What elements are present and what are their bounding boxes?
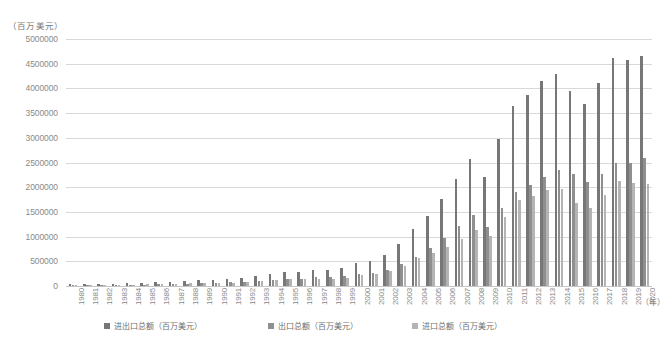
bar-group — [540, 39, 549, 286]
legend-label: 进口总额（百万美元） — [422, 320, 502, 331]
bar-group — [126, 39, 135, 286]
bar-import — [375, 274, 378, 286]
legend-item[interactable]: 进出口总额（百万美元） — [104, 320, 202, 331]
x-axis-unit-label: （年） — [641, 296, 665, 307]
legend-item[interactable]: 进口总额（百万美元） — [412, 320, 502, 331]
x-axis-tick-label: 2013 — [548, 288, 557, 305]
bars-layer — [66, 39, 652, 286]
legend-label: 进出口总额（百万美元） — [114, 320, 202, 331]
bar-group — [140, 39, 149, 286]
bar-import — [175, 284, 178, 286]
bar-import — [132, 285, 135, 286]
x-axis-tick-label: 1997 — [320, 288, 329, 305]
x-axis-tick-label: 2006 — [448, 288, 457, 305]
x-axis-tick-label: 1999 — [348, 288, 357, 305]
x-axis-tick-label: 1986 — [162, 288, 171, 305]
x-axis-tick-label: 2007 — [463, 288, 472, 305]
bar-group — [97, 39, 106, 286]
x-axis-tick-label: 2015 — [577, 288, 586, 305]
x-axis-tick-label: 2002 — [391, 288, 400, 305]
bar-import — [532, 196, 535, 286]
x-axis-tick-label: 2012 — [534, 288, 543, 305]
x-axis-tick-labels: 1980198119821983198419851986198719881989… — [66, 288, 652, 322]
bar-group — [497, 39, 506, 286]
x-axis-tick-label: 1998 — [334, 288, 343, 305]
bar-group — [555, 39, 564, 286]
bar-group — [426, 39, 435, 286]
bar-group — [240, 39, 249, 286]
bar-import — [361, 275, 364, 286]
bar-import — [518, 200, 521, 286]
legend-swatch-icon — [268, 323, 274, 329]
bar-group — [640, 39, 649, 286]
x-axis-tick-label: 1989 — [205, 288, 214, 305]
bar-group — [83, 39, 92, 286]
x-axis-tick-label: 2001 — [377, 288, 386, 305]
bar-group — [269, 39, 278, 286]
x-axis-tick-label: 2003 — [405, 288, 414, 305]
y-axis-tick-label: 0 — [53, 281, 58, 291]
y-axis-tick-label: 2500000 — [26, 158, 58, 168]
x-axis-tick-label: 1983 — [120, 288, 129, 305]
y-axis-tick-label: 4000000 — [26, 83, 58, 93]
bar-group — [526, 39, 535, 286]
x-axis-tick-label: 1984 — [134, 288, 143, 305]
x-axis-tick-label: 2008 — [477, 288, 486, 305]
x-axis-tick-label: 1980 — [77, 288, 86, 305]
bar-group — [512, 39, 521, 286]
bar-import — [75, 285, 78, 286]
bar-import — [489, 236, 492, 286]
bar-group — [197, 39, 206, 286]
legend-item[interactable]: 出口总额（百万美元） — [268, 320, 358, 331]
bar-group — [369, 39, 378, 286]
x-axis-tick-label: 2017 — [605, 288, 614, 305]
x-axis-tick-label: 1995 — [291, 288, 300, 305]
bar-import — [261, 281, 264, 286]
bar-import — [632, 183, 635, 286]
bar-import — [318, 279, 321, 286]
bar-group — [455, 39, 464, 286]
x-axis-tick-label: 1991 — [234, 288, 243, 305]
bar-import — [389, 271, 392, 286]
bar-group — [212, 39, 221, 286]
legend-label: 出口总额（百万美元） — [278, 320, 358, 331]
bar-group — [569, 39, 578, 286]
x-axis-tick-label: 1988 — [191, 288, 200, 305]
bar-group — [355, 39, 364, 286]
bar-group — [297, 39, 306, 286]
bar-group — [612, 39, 621, 286]
x-axis-tick-label: 2004 — [420, 288, 429, 305]
bar-group — [154, 39, 163, 286]
bar-import — [561, 189, 564, 286]
bar-import — [589, 208, 592, 286]
y-axis-tick-label: 500000 — [30, 256, 58, 266]
x-axis-tick-label: 2014 — [563, 288, 572, 305]
bar-group — [326, 39, 335, 286]
bar-group — [383, 39, 392, 286]
y-axis-tick-label: 3000000 — [26, 133, 58, 143]
y-axis-tick-labels: 5000000450000040000003500000300000025000… — [0, 0, 66, 337]
x-axis-tick-label: 2016 — [591, 288, 600, 305]
x-axis-tick-label: 1985 — [148, 288, 157, 305]
bar-import — [89, 285, 92, 286]
bar-group — [183, 39, 192, 286]
x-axis-tick-label: 2000 — [363, 288, 372, 305]
plot-area — [66, 39, 652, 286]
x-axis-tick-label: 1996 — [305, 288, 314, 305]
y-axis-tick-label: 1500000 — [26, 207, 58, 217]
bar-import — [246, 282, 249, 286]
bar-group — [254, 39, 263, 286]
bar-import — [203, 283, 206, 286]
bar-import — [546, 190, 549, 286]
chart-legend: 进出口总额（百万美元）出口总额（百万美元）进口总额（百万美元） — [0, 320, 666, 334]
bar-group — [483, 39, 492, 286]
x-axis-tick-label: 2010 — [505, 288, 514, 305]
bar-group — [340, 39, 349, 286]
bar-import — [304, 279, 307, 286]
legend-swatch-icon — [104, 323, 110, 329]
bar-import — [332, 279, 335, 286]
x-axis-tick-label: 1982 — [105, 288, 114, 305]
bar-import — [189, 283, 192, 286]
bar-import — [432, 253, 435, 286]
bar-import — [647, 184, 650, 286]
